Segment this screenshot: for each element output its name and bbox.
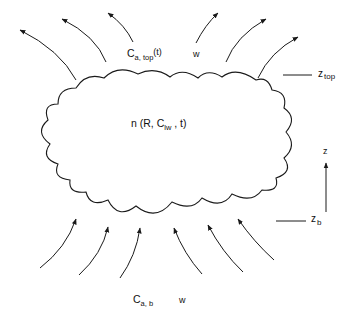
top-concentration-label: Ca, top(t) — [127, 47, 162, 59]
top-arrow-4 — [196, 13, 218, 43]
bottom-conc-sub: a, b — [141, 299, 154, 308]
top-velocity-label: w — [193, 49, 200, 59]
top-arrow-6 — [258, 37, 298, 78]
top-velocity-text: w — [193, 49, 200, 59]
z-axis-text: z — [323, 146, 328, 156]
bottom-velocity-text: w — [179, 295, 186, 305]
bottom-arrow-4 — [174, 228, 202, 274]
z-top-main: z — [318, 68, 323, 79]
top-arrow-3 — [108, 13, 133, 42]
z-top-sub: top — [324, 72, 335, 81]
z-top-label: ztop — [318, 68, 335, 79]
cloud-label-main: n (R, C — [131, 117, 164, 129]
bottom-velocity-label: w — [179, 295, 186, 305]
bottom-arrow-5 — [208, 225, 243, 272]
bottom-arrow-3 — [120, 228, 140, 278]
bottom-arrow-2 — [79, 227, 108, 275]
top-arrow-5 — [226, 19, 266, 62]
top-conc-end: (t) — [153, 47, 162, 57]
top-conc-sub: a, top — [135, 53, 154, 62]
bottom-concentration-label: Ca, b — [133, 293, 153, 305]
bottom-conc-main: C — [133, 293, 141, 305]
cloud-label-end: , t) — [171, 117, 186, 129]
cloud-distribution-label: n (R, Clw , t) — [131, 117, 187, 129]
z-b-main: z — [311, 213, 316, 224]
z-b-sub: b — [317, 218, 321, 227]
z-axis-label: z — [323, 146, 328, 156]
top-arrow-1 — [20, 30, 76, 80]
z-b-label: zb — [311, 213, 321, 224]
top-conc-main: C — [127, 47, 135, 59]
bottom-arrow-1 — [40, 219, 76, 268]
cloud-outline — [41, 70, 291, 213]
cloud-diagram — [0, 0, 347, 315]
top-arrow-2 — [62, 19, 106, 62]
cloud-label-sub: lw — [164, 123, 171, 132]
bottom-arrow-6 — [238, 219, 274, 260]
